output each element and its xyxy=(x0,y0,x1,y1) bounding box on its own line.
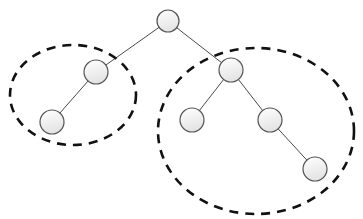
tree-nodes xyxy=(40,10,327,181)
tree-node-RL xyxy=(180,108,204,132)
tree-edges xyxy=(52,21,315,169)
binary-tree-diagram xyxy=(0,0,363,219)
tree-node-LL xyxy=(40,110,64,134)
left-subtree-dashed-ellipse xyxy=(10,45,136,145)
tree-node-L xyxy=(84,60,108,84)
tree-node-RRR xyxy=(303,157,327,181)
tree-node-root xyxy=(157,10,179,32)
tree-node-RR xyxy=(258,108,282,132)
edge-root-L xyxy=(96,21,168,72)
tree-node-R xyxy=(219,58,243,82)
